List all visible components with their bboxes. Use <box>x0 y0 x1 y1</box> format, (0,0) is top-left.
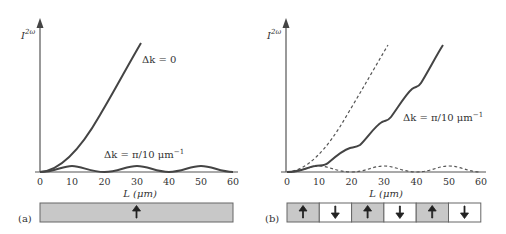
panel-b-x-ticks: 0 10 20 30 40 50 60 <box>284 176 487 187</box>
x-tick: 10 <box>66 176 78 187</box>
panel-a-label: (a) <box>18 213 32 224</box>
panel-b-curve-qpm <box>287 45 443 172</box>
panel-a-curve-dk-mismatch <box>40 166 233 172</box>
x-tick: 30 <box>131 176 143 187</box>
x-tick: 60 <box>227 176 239 187</box>
panel-b-curve-dk0-dashed <box>287 45 388 172</box>
x-tick: 50 <box>195 176 207 187</box>
x-tick: 20 <box>345 176 357 187</box>
panel-b-curve-mismatch-dashed <box>287 166 481 172</box>
x-tick: 60 <box>475 176 487 187</box>
panel-b-y-label: I2ω <box>266 28 281 41</box>
panel-a-y-axis-arrow-icon <box>37 18 44 28</box>
x-tick: 40 <box>163 176 175 187</box>
panel-a-annotation-dk0: Δk = 0 <box>142 54 176 65</box>
x-tick: 40 <box>410 176 422 187</box>
panel-b-x-label: L (μm) <box>368 188 403 199</box>
x-tick: 20 <box>98 176 110 187</box>
panel-b-label: (b) <box>265 213 279 224</box>
panel-a-plot: 0 10 20 30 40 50 60 L (μm) I2ω Δk = 0 Δk… <box>20 18 239 199</box>
x-tick: 0 <box>284 176 290 187</box>
panel-b-plot: 0 10 20 30 40 50 60 L (μm) I2ω Δk = π/10… <box>266 18 487 199</box>
panel-a-crystal: (a) <box>18 203 233 224</box>
x-tick: 0 <box>37 176 43 187</box>
panel-a-y-label: I2ω <box>20 28 35 41</box>
panel-b-annotation-qpm: Δk = π/10 μm−1 <box>403 111 483 123</box>
panel-a-x-label: L (μm) <box>122 188 157 199</box>
x-tick: 10 <box>313 176 325 187</box>
panel-a-x-ticks: 0 10 20 30 40 50 60 <box>37 176 239 187</box>
x-tick: 30 <box>378 176 390 187</box>
x-tick: 50 <box>443 176 455 187</box>
panel-a-annotation-dk-mismatch: Δk = π/10 μm−1 <box>104 148 184 160</box>
figure: 0 10 20 30 40 50 60 L (μm) I2ω Δk = 0 Δk… <box>0 0 506 234</box>
panel-b-y-axis-arrow-icon <box>283 18 290 28</box>
panel-b-crystal: (b) <box>265 203 481 224</box>
